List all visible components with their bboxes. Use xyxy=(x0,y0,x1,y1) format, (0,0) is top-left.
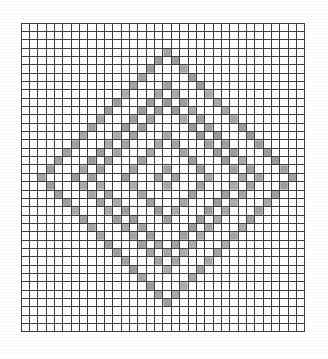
pattern-sheet: Diamond lattice cross-stitch chart xyxy=(0,0,328,359)
stitch-cells-canvas xyxy=(21,23,305,332)
stitch-cell-layer xyxy=(21,23,305,332)
stitch-grid[interactable] xyxy=(21,23,305,332)
